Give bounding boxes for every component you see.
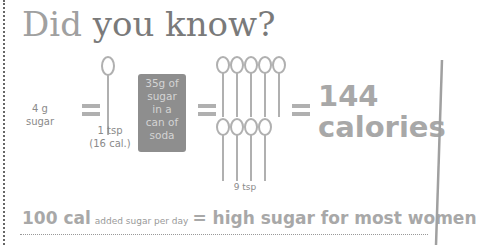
teaspoon-amount: 1 tsp (88, 124, 132, 137)
page-title: Did you know? (22, 4, 275, 44)
dotted-left-border (3, 0, 5, 245)
soda-line: sugar (138, 90, 186, 103)
title-you-know: you know? (82, 4, 276, 44)
soda-line: soda (138, 129, 186, 142)
calorie-amount: 100 cal (22, 208, 91, 228)
right-edge-line (430, 0, 444, 245)
calories-number: 144 (318, 81, 379, 111)
soda-line: can of (138, 116, 186, 129)
limit-detail: added sugar per day (95, 216, 189, 226)
sugar-word: sugar (22, 115, 58, 128)
soda-line: in a (138, 103, 186, 116)
title-did: Did (22, 4, 82, 44)
nine-teaspoons-icon (215, 55, 295, 185)
sugar-amount-label: 4 g sugar (22, 102, 58, 128)
teaspoon-label: 1 tsp (16 cal.) (88, 124, 132, 150)
dotted-divider (20, 234, 428, 235)
equals-icon (292, 103, 310, 119)
soda-line: 35g of (138, 77, 186, 90)
calories-word: calories (318, 112, 446, 142)
nine-teaspoons-label: 9 tsp (225, 181, 265, 194)
equals-icon (198, 103, 216, 119)
soda-sugar-box: 35g of sugar in a can of soda (138, 74, 186, 152)
teaspoon-calories: (16 cal.) (88, 137, 132, 150)
daily-limit-statement: 100 caladded sugar per day= high sugar f… (22, 208, 477, 228)
sugar-grams: 4 g (22, 102, 58, 115)
